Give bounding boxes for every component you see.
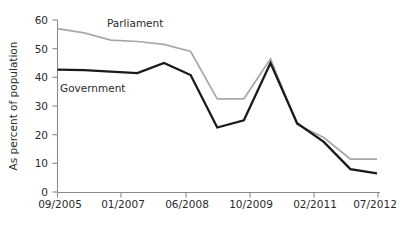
y-tick-label-10: 10 bbox=[35, 157, 48, 169]
y-tick-label-0: 0 bbox=[41, 186, 48, 198]
y-tick-label-30: 30 bbox=[35, 100, 48, 112]
x-tick-label-1: 01/2007 bbox=[101, 198, 145, 210]
y-tick-label-50: 50 bbox=[35, 43, 48, 55]
x-axis-ticks bbox=[58, 193, 379, 198]
x-tick-label-0: 09/2005 bbox=[38, 198, 82, 210]
chart-canvas: 60 50 40 30 20 10 0 As percent of popula… bbox=[0, 0, 400, 227]
x-tick-label-5: 07/2012 bbox=[353, 198, 397, 210]
line-chart: 60 50 40 30 20 10 0 As percent of popula… bbox=[0, 0, 400, 227]
x-tick-label-3: 10/2009 bbox=[229, 198, 273, 210]
y-axis-ticks bbox=[53, 20, 58, 192]
y-tick-label-40: 40 bbox=[35, 71, 48, 83]
x-tick-label-4: 02/2011 bbox=[293, 198, 337, 210]
x-tick-label-2: 06/2008 bbox=[165, 198, 209, 210]
y-axis-title: As percent of population bbox=[7, 42, 19, 171]
y-tick-label-60: 60 bbox=[35, 14, 48, 26]
series-annotation-government: Government bbox=[60, 82, 125, 94]
series-line-government bbox=[58, 63, 378, 173]
y-tick-label-20: 20 bbox=[35, 129, 48, 141]
series-annotation-parliament: Parliament bbox=[107, 17, 163, 29]
